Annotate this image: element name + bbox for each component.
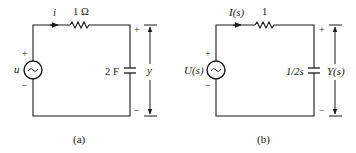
plus-sign-output-a: +: [134, 24, 140, 35]
plus-sign-source-b: +: [205, 48, 211, 59]
minus-sign-output-b: −: [319, 105, 325, 116]
resistor-icon: [255, 22, 276, 28]
circuit-panel-a: i 1 Ω + u − 2 F + − y (a): [14, 6, 157, 146]
output-label-b: Y(s): [327, 65, 345, 78]
source-label-b: U(s): [184, 64, 204, 77]
capacitor-icon: [308, 68, 320, 73]
plus-sign-source-a: +: [22, 48, 28, 59]
current-label-b: I(s): [228, 6, 245, 19]
plus-sign-output-b: +: [319, 24, 325, 35]
minus-sign-source-b: −: [205, 80, 211, 91]
capacitor-label-b: 1/2s: [286, 66, 304, 77]
current-label-a: i: [53, 6, 56, 18]
circuit-panel-b: I(s) 1 + U(s) − 1/2s + − Y(s) (b): [184, 6, 345, 146]
minus-sign-source-a: −: [22, 80, 28, 91]
resistor-label-a: 1 Ω: [73, 6, 89, 17]
capacitor-icon: [124, 68, 136, 73]
resistor-icon: [70, 22, 91, 28]
circuit-figure: i 1 Ω + u − 2 F + − y (a) I(s) 1: [0, 0, 356, 153]
caption-a: (a): [73, 133, 86, 146]
resistor-label-b: 1: [262, 6, 267, 17]
output-label-a: y: [146, 64, 152, 76]
capacitor-label-a: 2 F: [105, 66, 119, 77]
minus-sign-output-a: −: [134, 105, 140, 116]
caption-b: (b): [257, 133, 270, 146]
source-label-a: u: [14, 63, 20, 75]
